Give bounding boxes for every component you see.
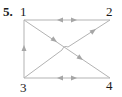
arrow-left-icon [57, 18, 63, 23]
graph-edges [0, 0, 122, 97]
directed-graph-figure: 5. 1 2 3 4 [0, 0, 122, 97]
arrow-up-icon [22, 45, 27, 51]
arrow-right-icon [71, 76, 77, 81]
arrow-down-right-icon [77, 54, 84, 60]
arrow-right-icon [71, 18, 77, 23]
arrow-up-right-icon [90, 29, 97, 35]
arrow-down-right-icon [51, 36, 58, 42]
arrow-left-icon [57, 76, 63, 81]
